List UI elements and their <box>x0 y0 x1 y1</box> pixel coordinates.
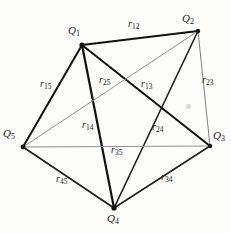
vertex-label-q3: Q3 <box>213 130 225 143</box>
scan-smudge <box>186 104 191 109</box>
edge-label-r13: r13 <box>141 79 152 91</box>
edge-label-r24: r24 <box>152 122 163 134</box>
vertex-label-q2: Q2 <box>182 13 194 26</box>
vertex-label-q4-subscript: 4 <box>115 217 119 226</box>
vertex-label-q1-subscript: 1 <box>76 29 80 38</box>
vertex-dot-q5 <box>21 145 26 150</box>
vertex-layer <box>21 29 213 211</box>
vertex-label-q1: Q1 <box>68 25 80 38</box>
edge-label-r34-subscript: 34 <box>165 175 173 184</box>
vertex-dot-q1 <box>79 42 84 47</box>
edge-layer <box>23 31 210 208</box>
vertex-dot-q4 <box>111 205 116 210</box>
edge-r45 <box>23 147 114 208</box>
vertex-label-q5-subscript: 5 <box>11 132 15 141</box>
edge-label-r45-subscript: 45 <box>60 177 68 186</box>
edge-label-r13-subscript: 13 <box>145 82 153 91</box>
edge-label-r35-subscript: 35 <box>115 148 123 157</box>
graph-figure: Q1Q2Q3Q4Q5r12r13r14r15r23r24r25r34r35r45 <box>0 0 231 233</box>
edge-label-r25: r25 <box>99 75 110 87</box>
edge-label-r34: r34 <box>161 172 172 184</box>
vertex-label-q3-subscript: 3 <box>221 134 225 143</box>
edge-label-r15-subscript: 15 <box>44 82 52 91</box>
vertex-label-q5: Q5 <box>3 128 15 141</box>
edge-label-r12-subscript: 12 <box>132 22 140 31</box>
edge-label-r14: r14 <box>82 120 93 132</box>
vertex-label-q4: Q4 <box>107 213 119 226</box>
edge-r23 <box>198 31 210 146</box>
edge-label-r25-subscript: 25 <box>103 78 111 87</box>
edge-label-r23: r23 <box>202 75 213 87</box>
edge-label-r14-subscript: 14 <box>86 123 94 132</box>
vertex-label-q2-subscript: 2 <box>190 17 194 26</box>
edge-label-r45: r45 <box>56 174 67 186</box>
edge-label-r24-subscript: 24 <box>156 125 164 134</box>
edge-r15 <box>23 45 82 147</box>
vertex-dot-q3 <box>208 144 212 148</box>
edge-label-r35: r35 <box>111 145 122 157</box>
graph-canvas <box>0 0 231 233</box>
vertex-dot-q2 <box>196 29 200 33</box>
edge-label-r23-subscript: 23 <box>206 78 214 87</box>
edge-label-r12: r12 <box>128 19 139 31</box>
edge-label-r15: r15 <box>40 79 51 91</box>
